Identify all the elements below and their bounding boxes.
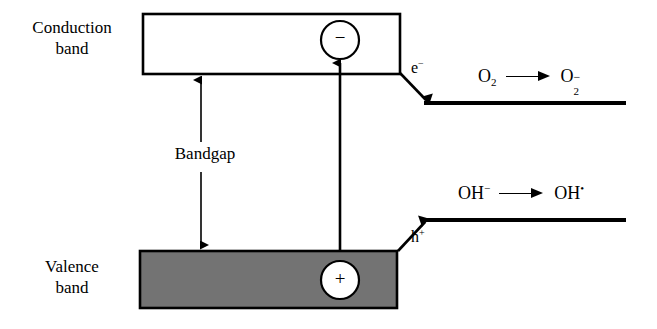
reduction-product: O−2 xyxy=(561,66,582,87)
reduction-reactant-base: O xyxy=(478,66,491,86)
hole-label-base: h xyxy=(411,228,419,245)
oxidation-reaction: OH− OH• xyxy=(458,183,584,204)
reduction-product-charge: − xyxy=(574,71,581,83)
bandgap-label: Bandgap xyxy=(146,143,264,165)
oxidation-reactant-base: OH xyxy=(458,183,484,203)
reduction-reaction: O2 O−2 xyxy=(478,66,582,87)
electron-label-charge: − xyxy=(418,58,424,69)
hole-plus-sign: + xyxy=(330,268,350,290)
valence-band-label: Valence band xyxy=(8,257,136,298)
reduction-reaction-arrow-icon xyxy=(506,70,552,84)
electron-minus-sign: − xyxy=(330,27,350,49)
oxidation-reactant: OH− xyxy=(458,183,490,204)
reduction-reactant: O2 xyxy=(478,66,497,87)
reduction-product-base: O xyxy=(561,66,574,86)
reduction-product-subscript: 2 xyxy=(574,86,580,97)
oxidation-product-base: OH xyxy=(554,183,580,203)
electron-carrier-label: e− xyxy=(411,59,424,77)
oxidation-product-radical-dot: • xyxy=(580,182,584,194)
oxidation-reaction-arrow-icon xyxy=(499,187,545,201)
conduction-band-label: Conduction band xyxy=(8,18,136,59)
band-diagram-figure: Conduction band Valence band Bandgap − +… xyxy=(0,0,657,329)
hole-carrier-label: h+ xyxy=(411,228,425,246)
hole-label-charge: + xyxy=(419,227,425,238)
oxidation-reactant-charge: − xyxy=(484,182,490,194)
reduction-reactant-subscript: 2 xyxy=(491,76,497,88)
oxidation-product: OH• xyxy=(554,183,584,204)
conduction-band-rect xyxy=(143,14,400,74)
electron-transfer-arrow xyxy=(400,73,426,100)
